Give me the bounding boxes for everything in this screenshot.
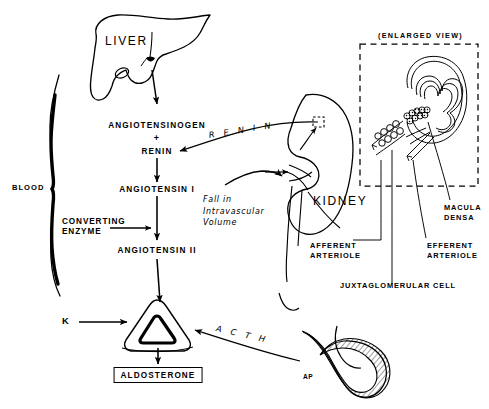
macula-densa-cells bbox=[404, 107, 430, 124]
arrow-ang2-to-adrenal bbox=[157, 259, 160, 302]
glomerulus-illustration bbox=[372, 56, 467, 161]
pituitary-illustration bbox=[279, 293, 390, 398]
arrow-fall-volume-to-kidney bbox=[225, 171, 282, 185]
blood-label: BLOOD bbox=[12, 184, 44, 193]
blood-brace bbox=[50, 75, 60, 296]
renin-label: RENIN bbox=[142, 147, 173, 157]
adrenal-gland-illustration bbox=[122, 300, 193, 352]
anterior-pituitary-label: AP bbox=[303, 373, 313, 381]
afferent-arteriole-label: AFFERENT ARTERIOLE bbox=[310, 241, 361, 260]
aldosterone-box: ALDOSTERONE bbox=[114, 367, 203, 383]
juxtaglomerular-cell-label: JUXTAGLOMERULAR CELL bbox=[340, 281, 456, 291]
jg-cells bbox=[375, 121, 404, 147]
rsa-system-diagram: LIVER KIDNEY AP (ENLARGED VIEW) ANGIOTEN… bbox=[0, 0, 489, 409]
efferent-arteriole-label: EFFERENT ARTERIOLE bbox=[427, 241, 478, 260]
converting-enzyme-label: CONVERTING ENZYME bbox=[62, 217, 126, 236]
plus-symbol: + bbox=[154, 133, 160, 144]
fall-in-volume-label: Fall in Intravascular Volume bbox=[203, 194, 265, 229]
angiotensinogen-label: ANGIOTENSINOGEN bbox=[108, 121, 205, 131]
liver-label: LIVER bbox=[105, 34, 148, 48]
potassium-label: K bbox=[62, 315, 69, 326]
macula-densa-label: MACULA DENSA bbox=[444, 203, 481, 222]
angiotensin-1-label: ANGIOTENSIN I bbox=[119, 185, 195, 195]
arrow-liver-to-angiotensinogen bbox=[152, 70, 157, 104]
enlarged-view-caption: (ENLARGED VIEW) bbox=[378, 32, 463, 40]
kidney-label: KIDNEY bbox=[313, 194, 367, 208]
liver-illustration bbox=[90, 15, 210, 100]
angiotensin-2-label: ANGIOTENSIN II bbox=[117, 246, 196, 256]
